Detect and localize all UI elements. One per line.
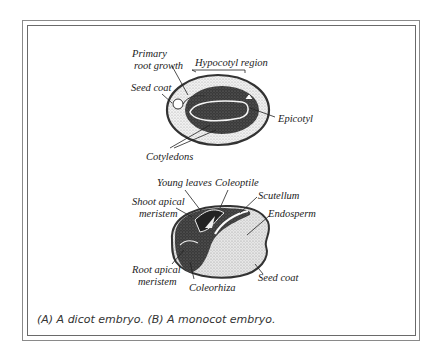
label-shoot-apical-1: Shoot apical xyxy=(132,196,185,207)
label-root-apical-2: meristem xyxy=(138,276,177,287)
embryo-diagram: Primary root growth Hypocotyl region See… xyxy=(0,0,441,359)
dicot-hypocotyl-loop xyxy=(190,101,248,121)
figure-caption: (A) A dicot embryo. (B) A monocot embryo… xyxy=(37,313,276,326)
label-primary-root-growth-1: Primary xyxy=(131,48,167,59)
hypocotyl-bracket xyxy=(192,70,245,73)
monocot-embryo: Young leaves Coleoptile Scutellum Shoot … xyxy=(131,177,316,293)
label-seed-coat-dicot: Seed coat xyxy=(131,82,173,93)
dicot-embryo: Primary root growth Hypocotyl region See… xyxy=(131,48,313,162)
label-cotyledons: Cotyledons xyxy=(146,151,193,162)
label-epicotyl: Epicotyl xyxy=(277,113,313,124)
label-primary-root-growth-2: root growth xyxy=(134,60,183,71)
label-root-apical-1: Root apical xyxy=(131,264,181,275)
label-shoot-apical-2: meristem xyxy=(139,208,178,219)
label-hypocotyl-region: Hypocotyl region xyxy=(194,57,268,68)
label-seed-coat-monocot: Seed coat xyxy=(258,272,300,283)
primary-root-tip xyxy=(173,99,183,109)
label-young-leaves: Young leaves xyxy=(157,177,212,188)
label-scutellum: Scutellum xyxy=(258,190,300,201)
label-coleoptile: Coleoptile xyxy=(215,177,259,188)
label-coleorhiza: Coleorhiza xyxy=(189,282,235,293)
label-endosperm: Endosperm xyxy=(267,208,316,219)
